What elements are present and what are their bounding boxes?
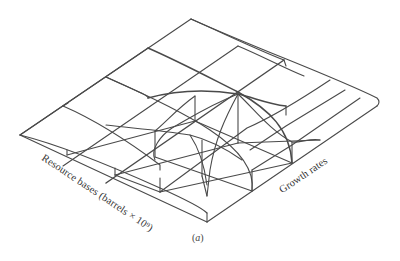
caption-close-paren: ) <box>200 232 203 243</box>
outer-boundary <box>20 19 379 222</box>
wireframe-surface-figure: Resource bases (barrels × 10⁹) Growth ra… <box>0 0 400 261</box>
figure-caption: (a) <box>192 232 204 243</box>
surface-plot <box>0 0 400 261</box>
